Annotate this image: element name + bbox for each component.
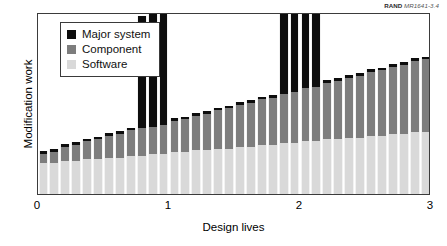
bar xyxy=(180,117,190,194)
x-axis-title: Design lives xyxy=(37,221,430,234)
legend-item-component: Component xyxy=(67,42,150,57)
bar xyxy=(388,64,398,194)
bar xyxy=(311,13,321,194)
bar-segment-software xyxy=(268,145,278,194)
legend: Major system Component Software xyxy=(60,22,160,77)
bar-segment-software xyxy=(93,159,103,194)
bar xyxy=(235,102,245,194)
legend-swatch-component-icon xyxy=(67,45,76,54)
bar xyxy=(93,137,103,194)
bar-segment-software xyxy=(421,132,430,194)
bar-segment-software xyxy=(148,154,158,194)
bar-segment-component xyxy=(71,145,81,161)
bar xyxy=(344,75,354,194)
bar-segment-component xyxy=(126,130,136,155)
bar-segment-software xyxy=(410,132,420,194)
bar-segment-software xyxy=(202,150,212,194)
plot-frame: Major system Component Software xyxy=(37,13,430,195)
legend-swatch-software-icon xyxy=(67,60,76,69)
x-tick-label-0: 0 xyxy=(22,199,52,212)
source-credit: RANDMR1641-3.4 xyxy=(384,2,439,9)
bar-segment-component xyxy=(421,59,430,132)
bar xyxy=(115,131,125,194)
bar-segment-component xyxy=(311,87,321,142)
bar-segment-component xyxy=(279,94,289,143)
bar-segment-software xyxy=(213,149,223,195)
bar-segment-component xyxy=(115,134,125,158)
bar xyxy=(191,113,201,194)
bar xyxy=(333,78,343,194)
bar-segment-component xyxy=(224,108,234,148)
bar-segment-component xyxy=(170,121,180,152)
legend-label-major-system: Major system xyxy=(82,29,150,41)
bar-segment-software xyxy=(301,141,311,194)
figure-code-label: MR1641-3.4 xyxy=(404,2,439,9)
bar xyxy=(71,142,81,194)
legend-label-component: Component xyxy=(82,44,141,56)
bar-segment-component xyxy=(344,78,354,138)
bar xyxy=(257,97,267,194)
bar xyxy=(39,151,49,194)
bar-segment-component xyxy=(213,110,223,148)
bar-segment-component xyxy=(399,65,409,134)
bar-segment-major-system xyxy=(311,13,321,87)
bar-segment-component xyxy=(366,72,376,136)
bar-segment-component xyxy=(257,99,267,145)
legend-label-software: Software xyxy=(82,59,127,71)
bar xyxy=(213,108,223,194)
bar-segment-component xyxy=(202,114,212,150)
bar-segment-software xyxy=(235,147,245,194)
bar-segment-software xyxy=(82,159,92,194)
bar-segment-software xyxy=(180,152,190,194)
bar-segment-software xyxy=(399,134,409,194)
rand-brand-label: RAND xyxy=(384,2,402,9)
bar-segment-software xyxy=(388,134,398,194)
bar-segment-component xyxy=(377,70,387,136)
bar xyxy=(268,95,278,194)
bar xyxy=(421,57,430,194)
bar xyxy=(301,13,311,194)
bar-segment-software xyxy=(170,152,180,194)
legend-item-software: Software xyxy=(67,57,150,72)
bar xyxy=(377,68,387,194)
bar xyxy=(82,139,92,194)
bar-segment-component xyxy=(388,67,398,134)
bar-segment-component xyxy=(148,127,158,154)
bar-segment-software xyxy=(224,149,234,195)
bar xyxy=(290,13,300,194)
y-axis-title: Modification work xyxy=(20,13,36,195)
bar-segment-software xyxy=(137,156,147,194)
bar-segment-software xyxy=(104,158,114,194)
bar-segment-software xyxy=(159,154,169,194)
bar-segment-component xyxy=(180,119,190,152)
bar-segment-major-system xyxy=(279,13,289,94)
bar xyxy=(224,106,234,194)
bar xyxy=(126,128,136,194)
x-tick-label-3: 3 xyxy=(415,199,445,212)
bar-segment-component xyxy=(49,152,59,163)
bar-segment-component xyxy=(93,139,103,159)
bar-segment-component xyxy=(322,83,332,139)
bar-segment-software xyxy=(311,141,321,194)
bar-segment-component xyxy=(159,125,169,154)
bar-segment-component xyxy=(333,81,343,139)
bar-segment-software xyxy=(60,161,70,194)
bar-segment-component xyxy=(104,136,114,158)
bar-segment-software xyxy=(366,136,376,194)
bar-segment-software xyxy=(49,163,59,194)
legend-swatch-major-system-icon xyxy=(67,30,76,39)
bar-segment-software xyxy=(126,156,136,194)
bar-segment-component xyxy=(246,103,256,147)
bar-segment-software xyxy=(279,143,289,194)
bar-segment-software xyxy=(355,138,365,194)
bar-segment-component xyxy=(268,98,278,145)
bar xyxy=(49,149,59,194)
bar-segment-component xyxy=(39,154,49,163)
bar-segment-major-system xyxy=(301,13,311,88)
bar xyxy=(279,13,289,194)
bar-segment-component xyxy=(235,105,245,147)
bar-segment-software xyxy=(257,145,267,194)
legend-item-major-system: Major system xyxy=(67,27,150,42)
bar-segment-component xyxy=(290,92,300,143)
bar-segment-component xyxy=(191,116,201,151)
